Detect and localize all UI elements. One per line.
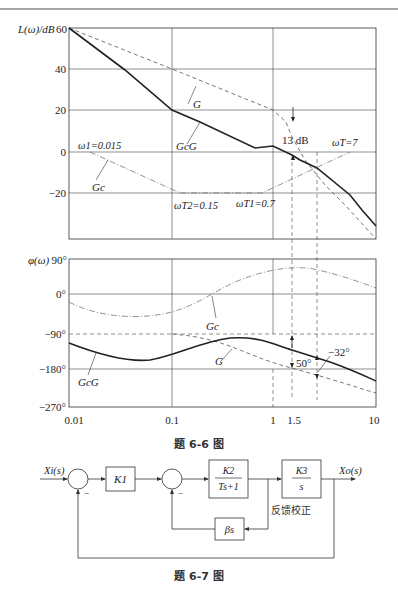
label-GcG-phase: GcG: [78, 376, 99, 388]
label-wT: ωT=7: [332, 137, 358, 148]
label-GcG: GcG: [176, 140, 197, 152]
arrow-head-icon: [76, 489, 80, 494]
arrow-head-icon: [170, 489, 174, 494]
minus-sign-2: −: [178, 488, 183, 498]
label-w1: ω1=0.015: [78, 140, 121, 151]
k3-denominator: s: [300, 481, 304, 492]
xtick-1.5: 1.5: [287, 414, 301, 426]
k2-denominator: Ts+1: [218, 481, 238, 492]
caption-fig-6-6: 题 6-6 图: [174, 438, 224, 451]
curve-G-phase: [172, 334, 376, 393]
label-wT2: ωT2=0.15: [174, 200, 218, 211]
arrow-head-icon: [244, 527, 249, 531]
phase-ylabel: φ(ω): [28, 254, 50, 267]
arrow-head-icon: [204, 477, 209, 481]
xtick-10: 10: [369, 414, 381, 426]
summing-junction-1: [68, 469, 88, 489]
arrow-head-icon: [290, 363, 294, 368]
phase-plot: φ(ω) 90° 0° −90° −180° −270° Gc G GcG 50…: [28, 254, 376, 413]
label-G-phase: G: [215, 355, 223, 367]
label-wT1: ωT1=0.7: [236, 198, 275, 209]
arrow-head-icon: [157, 477, 162, 481]
feedback-correction-label: 反馈校正: [271, 504, 311, 516]
k1-label: K1: [113, 473, 127, 485]
inner-feedback-line: [245, 479, 268, 529]
leader-GcG-phase: [88, 353, 96, 375]
ytick-neg20: −20: [49, 187, 67, 199]
summing-junction-2: [162, 469, 182, 489]
label-gain-margin: 13 dB: [282, 134, 309, 146]
label-pm2: −32°: [328, 346, 350, 358]
beta-s-label: βs: [224, 524, 234, 535]
arrow-head-icon: [291, 117, 295, 122]
ytick-neg270: −270°: [39, 401, 66, 413]
xtick-0.01: 0.01: [64, 414, 83, 426]
xtick-0.1: 0.1: [165, 414, 179, 426]
arrow-head-icon: [290, 335, 294, 340]
ytick-20: 20: [55, 104, 67, 116]
curve-GcG-magnitude: [69, 28, 376, 226]
ytick-0deg: 0°: [56, 288, 66, 300]
x-axis: 0.01 0.1 1 1.5 10: [64, 414, 380, 426]
leader-Gc: [96, 160, 108, 180]
xtick-1: 1: [270, 414, 276, 426]
ytick-40: 40: [55, 63, 67, 75]
label-G: G: [193, 98, 201, 110]
arrow-head-icon: [315, 374, 319, 379]
k3-numerator: K3: [295, 465, 308, 476]
phase-frame: [69, 259, 376, 407]
ytick-90: 90°: [52, 254, 67, 266]
ytick-0: 0: [61, 146, 67, 158]
minus-sign-1: −: [84, 488, 89, 498]
figure-canvas: L(ω)/dB 60 40 20 0 −20 G GcG Gc ω1=0.015…: [0, 0, 398, 591]
input-label: Xi(s): [43, 465, 65, 477]
ytick-60: 60: [56, 23, 68, 35]
label-pm1: 50°: [296, 357, 311, 369]
k2-numerator: K2: [222, 465, 235, 476]
ytick-neg180: −180°: [39, 363, 66, 375]
arrow-head-icon: [63, 477, 68, 481]
curve-Gc-magnitude: [90, 152, 350, 193]
label-Gc: Gc: [92, 181, 105, 193]
leader-Gc-phase: [212, 296, 216, 318]
ytick-neg90: −90°: [44, 328, 66, 340]
curve-Gc-phase: [69, 268, 376, 317]
arrow-head-icon: [351, 477, 356, 481]
label-Gc-phase: Gc: [206, 320, 219, 332]
arrow-head-icon: [277, 477, 282, 481]
arrow-head-icon: [101, 477, 106, 481]
magnitude-ylabel: L(ω)/dB: [17, 23, 55, 36]
caption-fig-6-7: 题 6-7 图: [174, 570, 224, 583]
output-label: Xo(s): [338, 465, 362, 477]
